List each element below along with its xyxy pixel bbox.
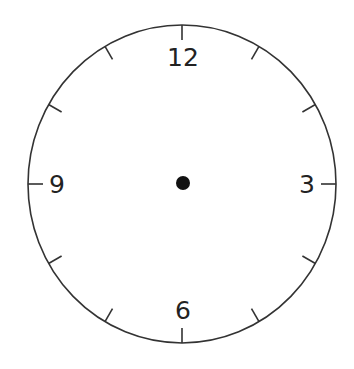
clock-face: 12 3 6 9 [0,0,354,369]
center-pivot-dot [176,176,190,190]
hour-tick-10 [49,105,62,113]
hour-tick-1 [252,46,260,59]
hour-tick-8 [49,256,62,264]
hour-tick-2 [302,105,315,113]
numeral-9: 9 [49,170,65,199]
hour-tick-4 [302,256,315,264]
numeral-3: 3 [299,170,315,199]
hour-tick-5 [252,309,260,322]
numeral-12: 12 [167,43,199,72]
hour-tick-11 [105,46,113,59]
hour-tick-7 [105,309,113,322]
numeral-6: 6 [175,296,191,325]
